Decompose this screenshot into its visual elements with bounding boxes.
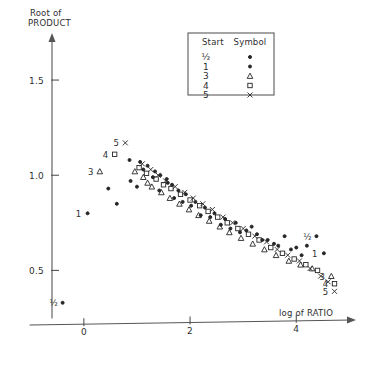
data-point: [206, 209, 210, 213]
data-point: [86, 212, 89, 215]
legend-symbol-dot: [249, 65, 252, 68]
series-5: [123, 140, 337, 293]
data-point: [272, 242, 275, 245]
data-point: [280, 251, 284, 255]
data-point: [181, 200, 184, 203]
data-point: [305, 244, 308, 247]
data-point: [123, 140, 128, 145]
data-point: [250, 225, 253, 228]
chart-canvas: 1.51.00.5024 5431½½1345 StartSymbol½1345…: [0, 0, 382, 365]
data-point: [190, 204, 193, 207]
data-point: [292, 257, 296, 261]
point-annotation-label: 5: [323, 287, 329, 297]
legend-row-label: ½: [202, 52, 211, 62]
data-point: [269, 245, 273, 249]
data-point: [97, 169, 103, 174]
data-point: [332, 289, 337, 294]
legend-header-symbol: Symbol: [234, 37, 267, 47]
x-axis-tick-label: 2: [187, 326, 193, 336]
data-point: [169, 186, 173, 190]
point-annotation-label: 1: [312, 249, 318, 259]
data-point: [142, 168, 145, 171]
data-point: [295, 246, 298, 249]
data-point: [322, 252, 325, 255]
data-point: [167, 195, 173, 200]
data-point: [283, 235, 286, 238]
data-point: [329, 273, 335, 278]
data-point: [215, 215, 219, 219]
data-point: [234, 221, 237, 224]
series-1: [128, 159, 303, 257]
point-annotation-label: 4: [103, 150, 109, 160]
data-point: [225, 221, 229, 225]
data-point: [112, 152, 116, 156]
data-point: [61, 301, 64, 304]
scatter-plot-figure: 1.51.00.5024 5431½½1345 StartSymbol½1345…: [0, 0, 382, 365]
data-point: [285, 253, 290, 258]
x-axis-arrowhead: [347, 317, 356, 324]
data-point: [238, 235, 244, 240]
data-point: [262, 247, 268, 252]
series-: [61, 168, 325, 304]
data-point: [250, 241, 256, 246]
x-axis-tick-label: 0: [81, 327, 87, 337]
data-point: [241, 226, 246, 231]
axis-titles-group: Root ofPRODUCTlog of RATIO: [28, 8, 333, 318]
data-point: [300, 254, 303, 257]
point-annotation-label: ½: [49, 298, 57, 308]
point-annotations-group: 5431½½1345: [49, 138, 328, 308]
legend-symbol-dot: [249, 56, 252, 59]
y-axis-tick-label: 0.5: [29, 266, 44, 276]
y-axis-title-line2: PRODUCT: [28, 18, 72, 28]
legend-header-start: Start: [202, 37, 224, 47]
data-point: [246, 232, 250, 236]
data-point: [332, 282, 336, 286]
data-point: [236, 226, 240, 230]
data-point: [297, 258, 302, 263]
point-annotation-label: ½: [303, 232, 311, 242]
data-point: [145, 180, 151, 185]
data-point: [273, 252, 279, 257]
legend-row-label: 1: [203, 62, 209, 72]
y-axis-arrowhead: [49, 33, 56, 42]
y-axis-tick-label: 1.5: [29, 76, 44, 86]
legend-box: StartSymbol½1345: [188, 33, 274, 100]
y-axis-title-line1: Root of: [30, 8, 62, 18]
data-point: [129, 179, 132, 182]
data-point: [289, 248, 292, 251]
point-annotation-label: 1: [76, 209, 82, 219]
legend-row-label: 5: [203, 90, 209, 100]
data-point: [275, 247, 280, 252]
x-axis-line: [30, 320, 352, 325]
data-point: [135, 185, 138, 188]
x-axis-tick-label: 4: [293, 324, 299, 334]
data-point: [148, 167, 153, 172]
data-points-group: [61, 140, 337, 304]
x-axis-title: log of RATIO: [279, 308, 333, 318]
point-annotation-label: 3: [88, 167, 94, 177]
data-point: [107, 187, 110, 190]
data-point: [277, 244, 280, 247]
data-point: [286, 258, 292, 263]
data-point: [298, 262, 304, 267]
data-point: [178, 192, 182, 196]
point-annotation-label: 5: [113, 138, 119, 148]
legend-row-label: 3: [203, 71, 209, 81]
data-point: [115, 202, 118, 205]
data-point: [128, 159, 131, 162]
legend-row-label: 4: [203, 81, 209, 91]
data-point: [173, 197, 176, 200]
y-axis-tick-label: 1.0: [29, 171, 44, 181]
data-point: [315, 235, 318, 238]
